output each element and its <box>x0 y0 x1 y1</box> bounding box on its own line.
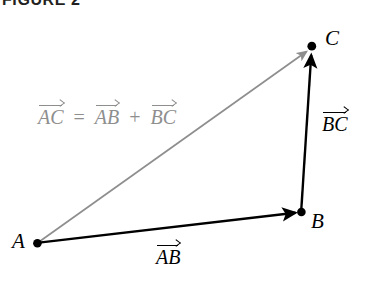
vector-diagram-canvas <box>0 0 367 283</box>
equation-term-ab: AB <box>95 100 119 127</box>
point-label-b: B <box>311 211 324 232</box>
equation-term-ac: AC <box>38 100 64 127</box>
figure-container: FIGURE 2 A B C AC = AB + BC AB <box>0 0 367 283</box>
equals-sign: = <box>69 107 90 127</box>
point-dot-b <box>297 208 306 217</box>
point-label-a: A <box>12 231 25 252</box>
vector-line-bc <box>301 55 311 211</box>
vector-equation: AC = AB + BC <box>38 100 176 127</box>
point-label-c: C <box>325 28 339 49</box>
point-dot-a <box>33 239 42 248</box>
vector-label-bc: BC <box>322 107 348 134</box>
point-dot-c <box>307 42 316 51</box>
equation-term-bc: BC <box>151 100 177 127</box>
plus-sign: + <box>124 107 145 127</box>
vector-line-ab <box>39 213 296 243</box>
vector-line-ac <box>39 52 307 243</box>
vector-label-ab: AB <box>156 240 180 267</box>
